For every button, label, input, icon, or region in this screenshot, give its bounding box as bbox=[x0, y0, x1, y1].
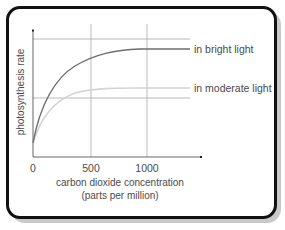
series-moderate-light-curve bbox=[33, 88, 190, 143]
x-axis-subtitle: (parts per million) bbox=[81, 190, 158, 201]
axes bbox=[33, 31, 201, 157]
chart-plot: in bright light in moderate light 0 500 … bbox=[0, 0, 285, 230]
x-axis-arrow-icon bbox=[200, 156, 202, 158]
gridlines bbox=[33, 24, 190, 157]
series-bright-light-curve bbox=[33, 49, 190, 143]
y-axis-arrow-icon bbox=[32, 30, 34, 32]
x-tick-1000: 1000 bbox=[135, 162, 159, 174]
series-label-moderate: in moderate light bbox=[194, 82, 272, 94]
x-tick-500: 500 bbox=[82, 162, 100, 174]
series-label-bright: in bright light bbox=[194, 43, 254, 55]
x-axis-title: carbon dioxide concentration bbox=[56, 177, 184, 188]
x-tick-0: 0 bbox=[30, 162, 36, 174]
y-axis-title: photosynthesis rate bbox=[15, 48, 26, 135]
